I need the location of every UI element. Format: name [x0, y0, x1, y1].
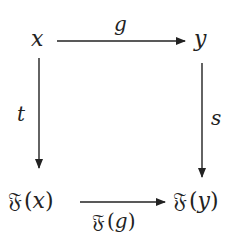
node-F-y: 𝔉(y) — [173, 190, 219, 212]
paren-close: ) — [45, 188, 54, 213]
node-x: x — [31, 28, 43, 50]
paren-open: ( — [107, 209, 115, 233]
paren-close: ) — [128, 209, 136, 233]
node-F-x-arg: x — [33, 188, 45, 213]
label-s: s — [211, 108, 221, 128]
node-F-x: 𝔉(x) — [8, 190, 54, 212]
commutative-diagram: x y 𝔉(x) 𝔉(y) g t s 𝔉(g) — [0, 0, 241, 244]
label-F-g-arg: g — [115, 209, 128, 233]
node-y: y — [194, 28, 206, 50]
label-t: t — [17, 104, 25, 124]
node-F-y-arg: y — [198, 188, 210, 213]
paren-close: ) — [210, 188, 219, 213]
paren-open: ( — [24, 188, 33, 213]
label-F-g: 𝔉(g) — [92, 211, 135, 231]
functor-F-symbol: 𝔉 — [173, 188, 187, 213]
functor-F-symbol: 𝔉 — [92, 209, 105, 233]
label-g: g — [114, 14, 127, 34]
paren-open: ( — [189, 188, 198, 213]
functor-F-symbol: 𝔉 — [8, 188, 22, 213]
